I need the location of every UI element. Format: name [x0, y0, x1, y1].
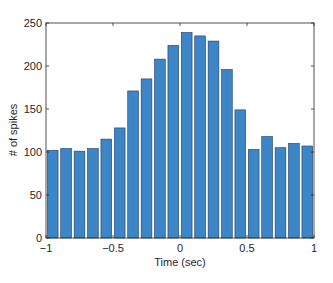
x-tick-label: 0 [177, 242, 183, 254]
histogram-bar [222, 69, 233, 238]
histogram-bar [88, 149, 99, 238]
histogram-bar [155, 59, 166, 238]
histogram-bar [289, 143, 300, 238]
y-tick-label: 100 [24, 146, 42, 158]
histogram-bar [101, 139, 112, 238]
x-tick-label: −0.5 [102, 242, 124, 254]
histogram-chart: 050100150200250 −1−0.500.51 Time (sec) #… [0, 0, 333, 283]
plot-area-frame [46, 23, 314, 238]
y-tick-label: 150 [24, 103, 42, 115]
histogram-bar [248, 149, 259, 238]
histogram-bar [114, 128, 125, 238]
histogram-bar [168, 45, 179, 238]
histogram-bar [128, 91, 139, 238]
histogram-bar [262, 137, 273, 238]
histogram-bar [302, 146, 313, 238]
histogram-bar [195, 36, 206, 238]
histogram-bar [208, 41, 219, 238]
x-axis-label: Time (sec) [154, 256, 206, 268]
y-axis-label: # of spikes [7, 103, 19, 156]
histogram-bar [141, 79, 152, 238]
y-tick-label: 50 [30, 189, 42, 201]
bar-series [47, 32, 312, 238]
x-tick-label: 1 [311, 242, 317, 254]
x-tick-label: −1 [40, 242, 53, 254]
x-tick-label: 0.5 [239, 242, 254, 254]
y-tick-label: 200 [24, 60, 42, 72]
histogram-bar [74, 151, 85, 238]
histogram-bar [181, 32, 192, 238]
histogram-bar [235, 110, 246, 238]
histogram-bar [61, 149, 72, 238]
histogram-bar [275, 148, 286, 238]
histogram-bar [47, 150, 58, 238]
y-tick-label: 250 [24, 17, 42, 29]
